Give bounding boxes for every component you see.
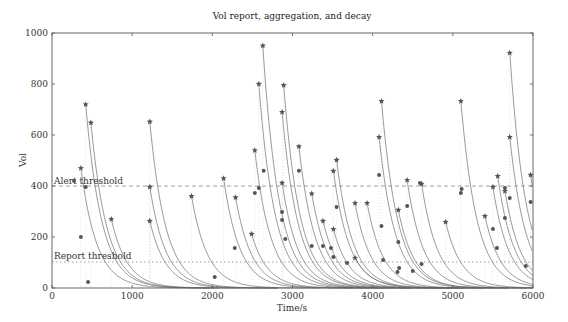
dot-marker	[280, 218, 284, 222]
dot-marker	[377, 173, 381, 177]
star-marker	[108, 216, 114, 222]
y-axis-label: Vol	[18, 153, 28, 168]
dot-marker	[233, 246, 237, 250]
dot-marker	[396, 240, 400, 244]
x-tick-label: 0	[49, 291, 55, 301]
dot-marker	[335, 205, 339, 209]
decay-curve	[407, 180, 532, 288]
decay-curve	[505, 191, 532, 270]
dot-marker	[529, 200, 533, 204]
star-marker	[320, 218, 326, 224]
decay-curve	[379, 137, 507, 288]
dot-marker	[213, 275, 217, 279]
dot-marker	[321, 244, 325, 248]
dot-marker	[257, 186, 261, 190]
dot-marker	[331, 255, 335, 259]
y-tick-label: 200	[31, 232, 48, 242]
dot-marker	[329, 246, 333, 250]
decay-curve	[284, 85, 412, 288]
decay-curve	[255, 150, 383, 288]
star-marker	[352, 255, 358, 261]
report-threshold-label: Report threshold	[54, 251, 132, 261]
dot-marker	[379, 224, 383, 228]
dot-marker	[310, 244, 314, 248]
decay-curve	[91, 123, 219, 288]
decay-curve	[510, 137, 532, 251]
dot-marker	[345, 261, 349, 265]
report-vertical-lines	[81, 46, 531, 288]
dot-marker	[72, 179, 76, 183]
decay-curves	[81, 46, 533, 288]
y-tick-label: 400	[31, 181, 48, 191]
dot-marker	[411, 269, 415, 273]
decay-curve	[224, 178, 352, 288]
x-tick-label: 5000	[441, 291, 464, 301]
star-marker	[330, 226, 336, 232]
dot-marker	[86, 280, 90, 284]
y-tick-label: 600	[31, 130, 48, 140]
y-tick-label: 0	[42, 283, 48, 293]
dot-marker	[491, 227, 495, 231]
x-tick-label: 4000	[361, 291, 384, 301]
star-marker	[482, 213, 488, 219]
decay-curve	[299, 147, 427, 289]
star-marker	[443, 219, 449, 225]
data-markers	[72, 43, 534, 284]
dot-marker	[297, 169, 301, 173]
x-tick-label: 2000	[201, 291, 224, 301]
x-tick-label: 6000	[522, 291, 545, 301]
dot-marker	[503, 186, 507, 190]
star-marker	[249, 231, 255, 237]
star-marker	[364, 200, 370, 206]
x-tick-label: 1000	[121, 291, 144, 301]
dot-marker	[280, 210, 284, 214]
dot-marker	[503, 216, 507, 220]
dot-marker	[420, 262, 424, 266]
star-marker	[147, 218, 153, 224]
dot-marker	[495, 246, 499, 250]
x-tick-label: 3000	[281, 291, 304, 301]
y-tick-label: 800	[31, 79, 48, 89]
decay-curve	[333, 229, 461, 288]
decay-curve	[192, 196, 320, 288]
decay-curve	[510, 53, 532, 230]
dot-marker	[381, 258, 385, 262]
y-tick-label: 1000	[25, 28, 48, 38]
dot-marker	[405, 204, 409, 208]
dot-marker	[418, 181, 422, 185]
alert-threshold-label: Alert threshold	[53, 176, 123, 186]
dot-marker	[397, 266, 401, 270]
x-axis-label: Time/s	[277, 303, 308, 313]
dot-marker	[84, 185, 88, 189]
chart-title: Vol report, aggregation, and decay	[212, 11, 373, 21]
dot-marker	[283, 237, 287, 241]
decay-curve	[398, 210, 526, 288]
dot-marker	[253, 191, 257, 195]
dot-marker	[524, 264, 528, 268]
dot-marker	[508, 196, 512, 200]
dot-marker	[460, 187, 464, 191]
decay-curve	[461, 101, 533, 286]
dot-marker	[396, 270, 400, 274]
decay-curve	[382, 101, 510, 288]
vol-decay-chart: Vol report, aggregation, and decay Alert…	[0, 0, 568, 322]
dot-marker	[79, 235, 83, 239]
dot-marker	[262, 169, 266, 173]
dot-marker	[459, 191, 463, 195]
